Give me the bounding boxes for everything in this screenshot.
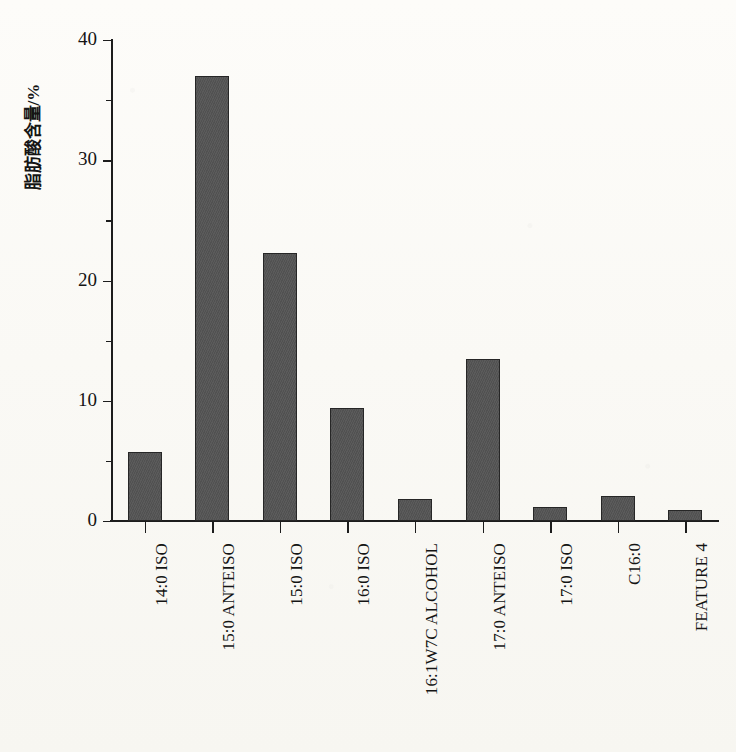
y-minor-tick-35: [106, 100, 111, 101]
y-axis-title: 脂肪酸含量/%: [14, 62, 48, 212]
bar: [263, 253, 297, 521]
x-axis-label-text: 15:0 ISO: [288, 539, 306, 606]
y-tick-30: 30: [103, 160, 111, 161]
plot-area: 010203040 14:0 ISO15:0 ANTEISO15:0 ISO16…: [111, 39, 719, 522]
y-tick-label: 0: [88, 510, 98, 530]
chart-page: 脂肪酸含量/% 010203040 14:0 ISO15:0 ANTEISO15…: [0, 0, 736, 752]
bar: [398, 499, 432, 521]
y-tick-label: 10: [78, 390, 97, 410]
x-tick: [415, 521, 416, 533]
x-axis-label: 15:0 ANTEISO: [220, 539, 238, 650]
y-minor-tick-5: [106, 461, 111, 462]
bar: [533, 507, 567, 521]
x-axis-label-text: 14:0 ISO: [153, 539, 171, 606]
y-minor-tick-15: [106, 341, 111, 342]
x-tick: [483, 521, 484, 533]
y-tick-0: 0: [103, 521, 111, 522]
x-tick: [618, 521, 619, 533]
x-tick: [145, 521, 146, 533]
y-tick-label: 20: [78, 270, 97, 290]
x-axis-label: 16:0 ISO: [355, 539, 373, 606]
bar: [601, 496, 635, 521]
x-axis-label: 15:0 ISO: [288, 539, 306, 606]
y-tick-10: 10: [103, 401, 111, 402]
x-tick: [685, 521, 686, 533]
x-axis-label: 14:0 ISO: [153, 539, 171, 606]
bar: [128, 452, 162, 521]
y-minor-tick-25: [106, 220, 111, 221]
x-tick: [347, 521, 348, 533]
bar: [195, 76, 229, 521]
x-tick: [280, 521, 281, 533]
x-axis-label-text: FEATURE 4: [693, 539, 711, 631]
x-axis-label: 17:0 ISO: [558, 539, 576, 606]
y-tick-label: 30: [78, 149, 97, 169]
x-axis-label: 17:0 ANTEISO: [491, 539, 509, 650]
x-axis-label-text: 17:0 ISO: [558, 539, 576, 606]
x-axis-label-text: 15:0 ANTEISO: [220, 539, 238, 650]
bar: [668, 510, 702, 521]
x-axis-label: C16:0: [626, 539, 644, 585]
x-axis-label: 16:1W7C ALCOHOL: [423, 539, 441, 695]
x-axis-label: FEATURE 4: [693, 539, 711, 631]
y-axis-line: [111, 39, 113, 522]
x-axis-label-text: 16:0 ISO: [355, 539, 373, 606]
y-tick-label: 40: [78, 29, 97, 49]
x-tick: [212, 521, 213, 533]
y-tick-40: 40: [103, 40, 111, 41]
x-axis-label-text: C16:0: [626, 539, 644, 585]
bar: [466, 359, 500, 521]
x-axis-label-text: 17:0 ANTEISO: [491, 539, 509, 650]
x-axis-label-text: 16:1W7C ALCOHOL: [423, 539, 441, 695]
y-tick-20: 20: [103, 281, 111, 282]
bar: [330, 408, 364, 521]
x-tick: [550, 521, 551, 533]
